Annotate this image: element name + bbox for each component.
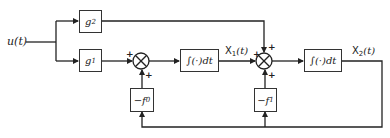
integrator-1-label: ∫(·)dt: [186, 55, 213, 66]
block-f1: −f1: [254, 88, 277, 112]
block-g2-sub: 2: [91, 18, 95, 26]
block-f0: −f0: [130, 88, 154, 112]
signal-x2-label: X2(t): [352, 46, 375, 58]
block-integrator-2: ∫(·)dt: [304, 49, 342, 72]
block-g2: g2: [79, 10, 102, 33]
integrator-2-label: ∫(·)dt: [310, 55, 337, 66]
block-g1: g1: [79, 49, 102, 72]
input-label: u(t): [7, 36, 27, 47]
sum2-sign-bottom: +: [268, 71, 276, 80]
block-g1-sub: 1: [91, 57, 95, 65]
signal-x1-label: X1(t): [225, 46, 248, 58]
block-f1-sub: 1: [269, 96, 273, 104]
x2-main: X: [352, 45, 359, 56]
block-f0-label: −f: [134, 95, 146, 106]
x1-suffix: (t): [236, 45, 248, 56]
sum1-sign-left: +: [126, 50, 134, 59]
x1-main: X: [225, 45, 232, 56]
sum2-sign-top: +: [268, 43, 276, 52]
x2-suffix: (t): [363, 45, 375, 56]
block-diagram: u(t) g2 g1 ∫(·)dt ∫(·)dt −f0 −f1 X1(t) X…: [0, 0, 390, 138]
block-f1-label: −f: [257, 95, 269, 106]
sum1-sign-bottom: +: [145, 71, 153, 80]
block-f0-sub: 0: [146, 96, 150, 104]
sum2-sign-left: +: [253, 50, 261, 59]
block-integrator-1: ∫(·)dt: [180, 49, 219, 72]
